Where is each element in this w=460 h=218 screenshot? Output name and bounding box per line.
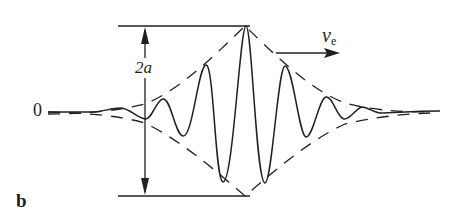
velocity-symbol: v [322, 24, 331, 46]
lower-envelope-dashed [48, 112, 430, 196]
velocity-label: ve [322, 24, 336, 49]
wave-packet-diagram [0, 0, 460, 218]
amplitude-label: 2a [134, 58, 153, 78]
origin-label: 0 [33, 100, 42, 121]
amplitude-double-arrow [141, 27, 149, 195]
velocity-arrow [276, 48, 340, 58]
velocity-subscript: e [331, 34, 336, 48]
panel-label: b [16, 190, 27, 212]
wave-packet-curve [48, 26, 440, 183]
